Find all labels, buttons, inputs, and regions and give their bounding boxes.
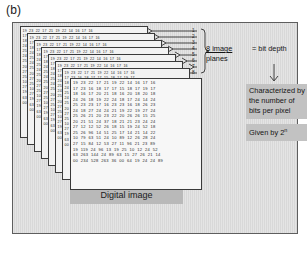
bit-plane-1-front: 19 23 22 17 21 19 22 14 16 17 1617 23 16… — [70, 78, 202, 190]
given-by-exponent: n — [284, 127, 287, 133]
given-by-text: Given by 2 — [249, 128, 284, 137]
figure-container: (b) 19 23 22 17 21 19 22 14 16 17 1617 2… — [0, 0, 308, 257]
panel-label: (b) — [6, 3, 21, 17]
bit-plane-stack: 19 23 22 17 21 19 22 14 16 17 1617 23 16… — [20, 26, 205, 191]
bit-depth-note: = bit depth — [252, 44, 287, 53]
image-planes-note: 8 image planes — [206, 44, 252, 64]
pixel-row: 00 234 528 263 36 00 64 19 24 24 89 — [73, 158, 200, 164]
image-planes-note-line2: planes — [206, 54, 228, 63]
characterized-note: Characterized by the number of bits per … — [246, 84, 307, 119]
image-planes-note-line1: 8 image — [206, 44, 232, 53]
given-by-note: Given by 2n — [246, 124, 307, 141]
